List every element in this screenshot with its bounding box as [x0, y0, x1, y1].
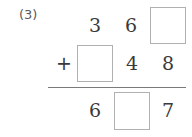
sum-hundreds-digit: 6	[87, 99, 103, 121]
problem-number-label: (3)	[19, 7, 37, 23]
sum-divider-line	[48, 87, 186, 88]
sum-tens-answer-box[interactable]	[114, 92, 150, 130]
addend2-ones-digit: 8	[160, 52, 176, 74]
sum-ones-digit: 7	[160, 99, 176, 121]
plus-operator: +	[56, 52, 72, 74]
addend2-tens-digit: 4	[124, 52, 140, 74]
addend1-ones-answer-box[interactable]	[150, 7, 186, 44]
addend2-hundreds-answer-box[interactable]	[77, 45, 113, 82]
math-worksheet-problem: (3) 3 6 + 4 8 6 7	[0, 0, 192, 137]
addend1-tens-digit: 6	[123, 14, 139, 36]
addend1-hundreds-digit: 3	[87, 14, 103, 36]
